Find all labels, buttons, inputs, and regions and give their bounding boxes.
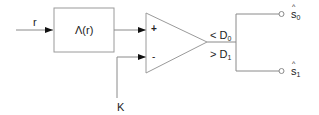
threshold-line — [117, 57, 146, 98]
terminal-s1-icon — [279, 69, 284, 74]
block-label: Λ(r) — [75, 25, 93, 36]
threshold-label: K — [117, 102, 124, 113]
terminal-s0-icon — [279, 12, 284, 17]
decision-s0-label: s0 — [291, 9, 300, 21]
diagram-canvas — [0, 0, 319, 115]
condition-d1-label: > D1 — [210, 49, 231, 61]
minus-label: - — [152, 52, 155, 62]
comparator-triangle — [146, 13, 207, 73]
decision-s1-label: s1 — [291, 66, 300, 78]
plus-label: + — [151, 24, 157, 34]
condition-d0-label: < D0 — [210, 30, 231, 42]
input-label: r — [33, 17, 37, 28]
